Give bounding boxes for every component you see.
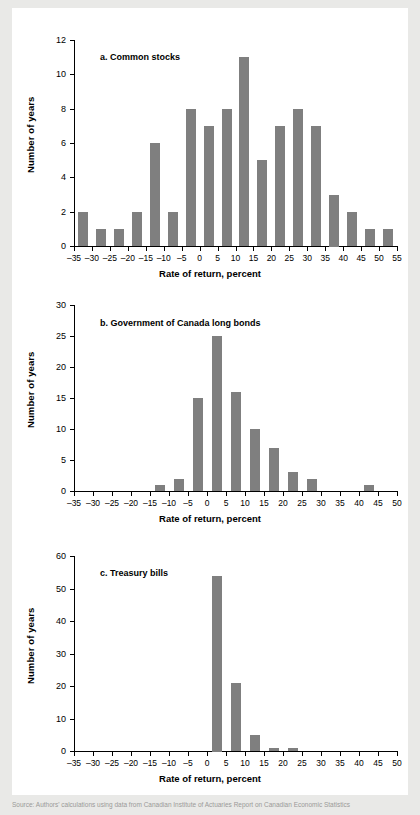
y-tick <box>70 40 74 41</box>
x-tick <box>359 492 360 496</box>
y-tick-label: 0 <box>38 241 66 251</box>
chart-treasury-bills: Number of years c. Treasury bills 010203… <box>12 536 408 786</box>
y-axis-label-a: Number of years <box>25 113 36 173</box>
x-tick <box>226 492 227 496</box>
x-tick <box>245 492 246 496</box>
y-tick <box>70 460 74 461</box>
x-tick <box>343 247 344 251</box>
y-tick <box>70 212 74 213</box>
x-tick <box>207 752 208 756</box>
histogram-bar <box>288 748 298 751</box>
y-tick-label: 8 <box>38 104 66 114</box>
x-tick-label: 50 <box>385 498 409 508</box>
y-tick <box>70 336 74 337</box>
histogram-bar <box>383 229 393 246</box>
x-tick <box>264 752 265 756</box>
x-tick <box>110 247 111 251</box>
histogram-bar <box>347 212 357 246</box>
histogram-bar <box>269 748 279 751</box>
plot-area-c: Number of years c. Treasury bills 010203… <box>12 536 408 786</box>
x-tick-label: 50 <box>385 758 409 768</box>
x-tick <box>207 492 208 496</box>
x-tick <box>307 247 308 251</box>
histogram-bar <box>269 448 279 491</box>
x-tick <box>321 752 322 756</box>
y-axis-line <box>74 40 75 247</box>
histogram-bar <box>239 57 249 246</box>
histogram-bar <box>311 126 321 246</box>
x-axis-line <box>74 491 398 492</box>
x-tick <box>112 492 113 496</box>
x-tick <box>218 247 219 251</box>
y-tick <box>70 429 74 430</box>
y-tick-label: 40 <box>38 616 66 626</box>
x-tick <box>361 247 362 251</box>
x-tick <box>245 752 246 756</box>
x-tick <box>397 492 398 496</box>
histogram-bar <box>257 160 267 246</box>
y-tick <box>70 654 74 655</box>
y-tick <box>70 177 74 178</box>
histogram-bar <box>193 398 203 491</box>
x-tick <box>236 247 237 251</box>
y-tick <box>70 143 74 144</box>
y-axis-label-c: Number of years <box>25 624 36 684</box>
y-tick <box>70 686 74 687</box>
x-tick <box>112 752 113 756</box>
histogram-bar <box>250 429 260 491</box>
source-note: Source: Authors' calculations using data… <box>12 800 408 809</box>
x-tick <box>93 752 94 756</box>
x-tick <box>379 247 380 251</box>
chart-government-long-bonds: Number of years b. Government of Canada … <box>12 291 408 526</box>
x-axis-label-a: Rate of return, percent <box>12 268 408 279</box>
histogram-bar <box>288 472 298 491</box>
x-tick <box>164 247 165 251</box>
histogram-bar <box>364 485 374 491</box>
y-tick-label: 10 <box>38 69 66 79</box>
y-tick-label: 15 <box>38 393 66 403</box>
chart-title-a: a. Common stocks <box>100 52 180 62</box>
y-tick-label: 60 <box>38 551 66 561</box>
y-tick-label: 10 <box>38 424 66 434</box>
histogram-bar <box>168 212 178 246</box>
histogram-bar <box>114 229 124 246</box>
histogram-bar <box>293 109 303 246</box>
y-tick-label: 30 <box>38 649 66 659</box>
x-tick <box>289 247 290 251</box>
x-tick <box>397 752 398 756</box>
x-tick <box>397 247 398 251</box>
figure-page: Number of years a. Common stocks 0246810… <box>0 0 420 815</box>
y-tick <box>70 556 74 557</box>
y-tick <box>70 589 74 590</box>
histogram-bar <box>329 195 339 247</box>
y-tick-label: 12 <box>38 35 66 45</box>
x-tick <box>74 752 75 756</box>
histogram-bar <box>222 109 232 246</box>
y-tick-label: 0 <box>38 486 66 496</box>
histogram-bar <box>212 576 222 752</box>
histogram-bar <box>231 392 241 491</box>
x-tick <box>128 247 129 251</box>
plot-area-b: Number of years b. Government of Canada … <box>12 291 408 526</box>
x-tick <box>169 752 170 756</box>
y-tick <box>70 398 74 399</box>
y-tick-label: 20 <box>38 362 66 372</box>
x-axis-label-b: Rate of return, percent <box>12 513 408 524</box>
y-tick-label: 25 <box>38 331 66 341</box>
x-tick <box>340 752 341 756</box>
x-tick <box>150 492 151 496</box>
y-tick-label: 50 <box>38 584 66 594</box>
y-tick-label: 20 <box>38 681 66 691</box>
y-axis-line <box>74 556 75 752</box>
x-tick <box>146 247 147 251</box>
x-tick <box>93 492 94 496</box>
x-tick <box>264 492 265 496</box>
y-tick <box>70 305 74 306</box>
x-tick <box>182 247 183 251</box>
x-axis-label-c: Rate of return, percent <box>12 773 408 784</box>
figure-panel: Number of years a. Common stocks 0246810… <box>12 8 408 795</box>
histogram-bar <box>78 212 88 246</box>
histogram-bar <box>365 229 375 246</box>
x-tick <box>302 752 303 756</box>
x-axis-line <box>74 751 398 752</box>
